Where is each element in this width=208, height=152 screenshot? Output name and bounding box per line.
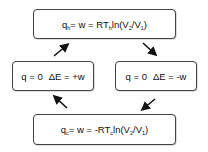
ln-part: ln(V: [112, 19, 129, 30]
delta-e-label: ΔE = +w: [49, 71, 85, 82]
close-paren: ): [145, 124, 148, 135]
q-zero-label: q = 0: [126, 71, 147, 82]
slash-part: /V: [132, 19, 141, 30]
ln-part: ln(V: [113, 124, 130, 135]
top-equation: qh= w = RThln(V2/V1): [62, 19, 147, 30]
isothermal-compression-box: qc= w = -RTcln(V2/V1): [33, 114, 176, 145]
arrow-right-to-bottom: [143, 99, 155, 109]
arrow-bottom-to-left: [55, 97, 67, 108]
arrow-left-to-top: [54, 45, 67, 56]
adiabatic-compression-box: q = 0ΔE = +w: [12, 61, 94, 91]
delta-e-label: ΔE = -w: [153, 71, 187, 82]
equation-part: = w = RT: [70, 19, 108, 30]
close-paren: ): [144, 19, 147, 30]
q-zero-label: q = 0: [21, 71, 42, 82]
arrow-top-to-right: [143, 43, 155, 54]
slash-part: /V: [133, 124, 142, 135]
adiabatic-expansion-box: q = 0ΔE = -w: [115, 61, 197, 91]
bottom-equation: qc= w = -RTcln(V2/V1): [61, 124, 149, 135]
isothermal-expansion-box: qh= w = RThln(V2/V1): [33, 9, 176, 39]
equation-part: = w = -RT: [69, 124, 111, 135]
